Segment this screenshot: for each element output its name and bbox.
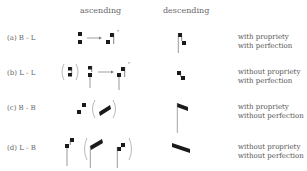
row-a-descending-notation: [175, 30, 195, 56]
row-c-perfection: without perfection: [238, 112, 304, 121]
row-d-perfection: without perfection: [238, 152, 304, 161]
row-d-descending-notation: [170, 140, 194, 156]
row-d-description: without propriety without perfection: [238, 143, 304, 161]
row-d-ascending-notation: [62, 136, 142, 170]
row-a-perfection: with perfection: [238, 42, 292, 51]
row-b-perfection: with perfection: [238, 77, 300, 86]
row-a-ascending-notation: *: [75, 28, 125, 52]
row-a-label: (a) B - L: [7, 34, 35, 42]
row-b-propriety: without propriety: [238, 68, 300, 77]
column-header-ascending: ascending: [80, 6, 121, 15]
row-c-ascending-notation: [75, 98, 125, 122]
svg-text:*: *: [128, 61, 130, 66]
row-b-description: without propriety with perfection: [238, 68, 300, 86]
row-c-propriety: with propriety: [238, 103, 304, 112]
row-c-label: (c) B - B: [7, 104, 36, 112]
row-d-propriety: without propriety: [238, 143, 304, 152]
row-d-label: (d) L - B: [7, 144, 36, 152]
row-c-descending-notation: [174, 101, 194, 135]
row-b-ascending-notation: *: [58, 62, 138, 94]
row-b-label: (b) L - L: [7, 69, 35, 77]
row-b-descending-notation: [175, 68, 191, 84]
row-c-description: with propriety without perfection: [238, 103, 304, 121]
svg-text:*: *: [117, 29, 119, 34]
column-header-descending: descending: [163, 6, 209, 15]
row-a-propriety: with propriety: [238, 33, 292, 42]
row-a-description: with propriety with perfection: [238, 33, 292, 51]
